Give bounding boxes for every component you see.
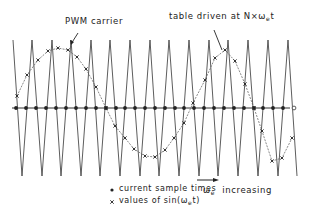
sample-dot bbox=[222, 106, 226, 110]
table-driven-label: table driven at N×ωet bbox=[169, 11, 274, 21]
legend-cross-icon bbox=[110, 200, 113, 203]
sine-cross-marker bbox=[223, 48, 226, 51]
sample-dot bbox=[54, 106, 58, 110]
sample-dot bbox=[24, 106, 28, 110]
legend-dot-icon bbox=[110, 188, 113, 191]
legend-cross-prefix: values of sin(ω bbox=[119, 196, 188, 205]
sample-dot bbox=[212, 106, 216, 110]
sine-cross-marker bbox=[143, 154, 146, 157]
sample-dot bbox=[242, 106, 246, 110]
pwm-diagram: PWM carrier table driven at N×ωet ωe inc… bbox=[0, 0, 319, 222]
sine-cross-marker bbox=[132, 147, 135, 150]
table-label-prefix: table driven at N×ω bbox=[169, 11, 266, 21]
sine-cross-marker bbox=[25, 73, 28, 76]
sine-cross-marker bbox=[84, 67, 87, 70]
sample-dot bbox=[281, 106, 285, 110]
sample-dot bbox=[232, 106, 236, 110]
sample-dot bbox=[173, 106, 177, 110]
sine-cross-marker bbox=[172, 136, 175, 139]
carrier-label: PWM carrier bbox=[65, 16, 123, 26]
sample-dot bbox=[271, 106, 275, 110]
sample-dot-open bbox=[292, 106, 296, 110]
sample-dot bbox=[133, 106, 137, 110]
sample-dot bbox=[114, 106, 118, 110]
sample-dot bbox=[64, 106, 68, 110]
increasing-arrowhead bbox=[213, 178, 219, 182]
sample-dot bbox=[202, 106, 206, 110]
legend-item-dot: current sample times bbox=[119, 184, 216, 193]
sample-dot bbox=[94, 106, 98, 110]
sample-dot bbox=[123, 106, 127, 110]
table-label-sub: e bbox=[266, 15, 270, 22]
sample-dot bbox=[153, 106, 157, 110]
sine-cross-marker bbox=[290, 136, 293, 139]
sample-dot bbox=[74, 106, 78, 110]
increasing-text: increasing bbox=[222, 185, 272, 195]
sample-dot bbox=[163, 106, 167, 110]
sine-cross-marker bbox=[123, 136, 126, 139]
sample-dot bbox=[192, 106, 196, 110]
sine-cross-marker bbox=[191, 101, 194, 104]
sample-dot bbox=[14, 106, 18, 110]
legend-cross-suffix: t) bbox=[192, 196, 199, 205]
sample-dot bbox=[84, 106, 88, 110]
sample-dot bbox=[182, 106, 186, 110]
sample-dot bbox=[143, 106, 147, 110]
legend-dot-text: current sample times bbox=[119, 184, 216, 193]
sine-cross-marker bbox=[163, 148, 166, 151]
sample-dot bbox=[34, 106, 38, 110]
sample-dot bbox=[261, 106, 265, 110]
table-label-suffix: t bbox=[270, 11, 274, 21]
carrier-label-text: PWM carrier bbox=[65, 16, 123, 26]
sine-cross-marker bbox=[94, 85, 97, 88]
table-leader-line bbox=[214, 30, 222, 50]
legend-item-cross: values of sin(ωet) bbox=[119, 196, 200, 205]
legend-cross-sub: e bbox=[188, 199, 192, 206]
sine-cross-marker bbox=[260, 129, 263, 132]
sample-dot bbox=[44, 106, 48, 110]
sine-cross-marker bbox=[75, 55, 78, 58]
sine-cross-marker bbox=[233, 59, 236, 62]
sine-cross-marker bbox=[36, 58, 39, 61]
sine-cross-marker bbox=[213, 56, 216, 59]
